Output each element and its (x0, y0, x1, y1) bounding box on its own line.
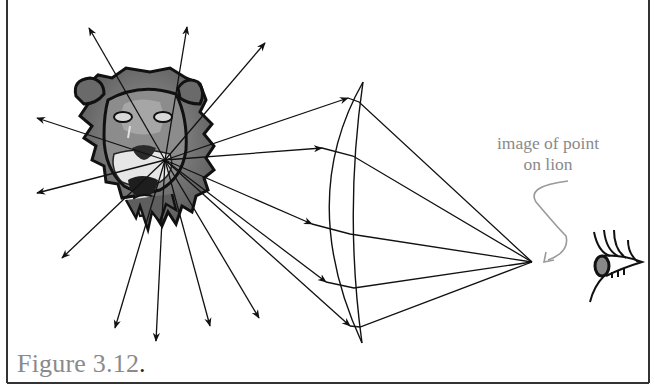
frame-border (7, 0, 649, 383)
caption-text: Figure 3.12 (17, 349, 139, 378)
figure-caption: Figure 3.12. (17, 349, 146, 379)
eye-illustration (590, 230, 642, 302)
figure-frame: image of point on lion Figure 3.12. (0, 0, 655, 387)
image-point-annotation: image of point on lion (474, 133, 622, 175)
caption-period: . (139, 349, 146, 378)
diagram-canvas (0, 0, 655, 387)
lens (329, 82, 363, 343)
annotation-line-2: on lion (474, 154, 622, 175)
annotation-arrow (534, 181, 568, 262)
lion-head-illustration (75, 68, 214, 230)
annotation-line-1: image of point (474, 133, 622, 154)
lens-back-surface (353, 82, 363, 343)
